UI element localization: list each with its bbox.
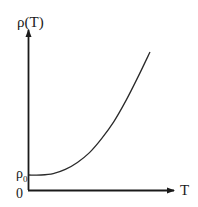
origin-label: 0 bbox=[16, 187, 23, 201]
rho0-label: ρ0 bbox=[16, 167, 28, 184]
rho0-subscript: 0 bbox=[23, 174, 28, 184]
resistivity-curve bbox=[29, 52, 150, 175]
x-axis-label: T bbox=[180, 183, 189, 198]
y-axis-label: ρ(T) bbox=[17, 15, 44, 30]
rho0-main: ρ bbox=[16, 166, 23, 181]
chart-canvas bbox=[0, 0, 198, 207]
